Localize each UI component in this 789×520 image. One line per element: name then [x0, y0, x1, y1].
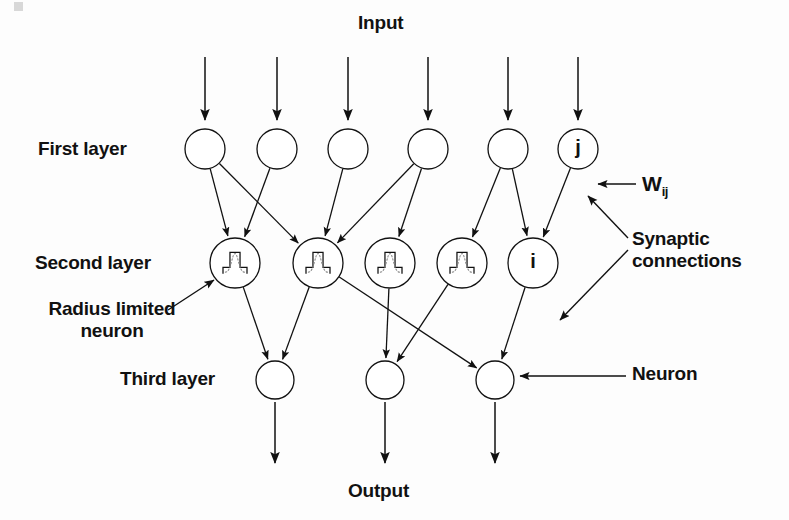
synapse-L2N4-to-L3N2 — [397, 284, 448, 361]
neuron-circle-L2N1[interactable] — [210, 238, 260, 288]
synapse-L1N3-to-L2N2 — [325, 169, 343, 236]
neuron-label: Neuron — [632, 363, 697, 385]
third-layer-label: Third layer — [120, 368, 215, 390]
synapse-L1N5-to-L2N5 — [512, 169, 527, 236]
synapse-L1N1-to-L2N2 — [219, 164, 298, 244]
synapse-L2N2-to-L3N3 — [339, 277, 476, 368]
neuron-circle-L2N2[interactable] — [293, 238, 343, 288]
output-label: Output — [348, 480, 409, 502]
weight-wij-label: Wij — [642, 172, 668, 200]
synaptic-connections-layer2-layer3 — [243, 277, 525, 368]
node-glyph-L2N5: i — [521, 250, 545, 273]
weight-subscript: ij — [662, 184, 668, 199]
synapse-L2N1-to-L3N1 — [243, 287, 268, 359]
input-arrow-group — [205, 57, 578, 120]
weight-symbol: W — [642, 172, 662, 195]
neuron-circle-L1N4[interactable] — [408, 129, 448, 169]
synaptic-connections-layer1-layer2 — [210, 164, 570, 244]
synapse-L1N1-to-L2N1 — [210, 169, 228, 236]
neuron-circle-L3N3[interactable] — [476, 361, 514, 399]
neuron-circle-L2N4[interactable] — [437, 238, 487, 288]
neuron-circle-L1N5[interactable] — [488, 129, 528, 169]
synapse-L2N2-to-L3N1 — [283, 287, 310, 359]
synapse-L1N6-to-L2N5 — [543, 168, 570, 237]
node-glyph-L1N6: j — [566, 136, 590, 159]
synapse-L1N2-to-L2N1 — [245, 168, 270, 236]
neuron-circle-L1N1[interactable] — [185, 129, 225, 169]
synapse-L1N4-to-L2N2 — [337, 164, 413, 243]
neuron-circle-L3N2[interactable] — [366, 361, 404, 399]
synaptic-connections-label: Synaptic connections — [632, 228, 782, 272]
first-layer-label: First layer — [38, 138, 127, 160]
synapse-L2N5-to-L3N3 — [502, 287, 525, 359]
second-layer-label: Second layer — [35, 252, 151, 274]
synapse-L1N5-to-L2N4 — [472, 168, 500, 237]
radius-limited-neuron-label: Radius limited neuron — [32, 298, 192, 342]
neuron-circle-L2N3[interactable] — [365, 238, 415, 288]
neural-network-diagram: Input Output First layer Second layer Th… — [0, 0, 789, 520]
synapse-L2N3-to-L3N2 — [386, 288, 389, 358]
synaptic-pointer-1 — [588, 196, 628, 238]
synaptic-pointer-2 — [560, 250, 628, 320]
output-arrow-group — [275, 402, 495, 463]
neuron-circle-L1N3[interactable] — [328, 129, 368, 169]
neuron-circle-L3N1[interactable] — [256, 361, 294, 399]
input-label: Input — [358, 12, 403, 34]
neuron-circle-L1N2[interactable] — [257, 129, 297, 169]
synapse-L1N4-to-L2N3 — [399, 168, 422, 236]
